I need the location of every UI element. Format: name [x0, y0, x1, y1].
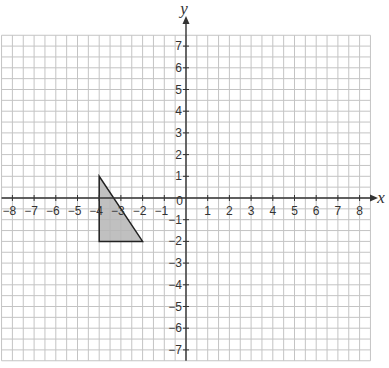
y-tick-label: 6	[175, 61, 182, 75]
x-tick-label: −4	[89, 204, 103, 218]
y-tick-label: −4	[168, 278, 182, 292]
x-tick-label: 4	[269, 204, 276, 218]
x-tick-label: −6	[46, 204, 60, 218]
tick-labels: −8−7−6−5−4−3−2−1123456787654321−1−2−3−4−…	[3, 0, 386, 357]
x-tick-label: 8	[356, 204, 363, 218]
y-tick-label: 1	[175, 169, 182, 183]
x-tick-label: 2	[226, 204, 233, 218]
coordinate-grid: −8−7−6−5−4−3−2−1123456787654321−1−2−3−4−…	[0, 0, 389, 368]
y-tick-label: −7	[168, 343, 182, 357]
y-tick-label: −5	[168, 300, 182, 314]
origin-label: 0	[176, 194, 183, 208]
x-axis-label: x	[376, 188, 385, 207]
x-tick-label: −3	[111, 204, 125, 218]
x-tick-label: 1	[204, 204, 211, 218]
x-tick-label: −7	[24, 204, 38, 218]
y-tick-label: −1	[168, 213, 182, 227]
x-tick-label: 3	[248, 204, 255, 218]
x-tick-label: −8	[3, 204, 17, 218]
x-tick-label: −1	[154, 204, 168, 218]
y-tick-label: −6	[168, 321, 182, 335]
x-tick-label: 7	[335, 204, 342, 218]
y-tick-label: 7	[175, 39, 182, 53]
y-tick-label: −2	[168, 234, 182, 248]
x-tick-label: 5	[291, 204, 298, 218]
x-tick-label: 6	[313, 204, 320, 218]
y-tick-label: 4	[175, 104, 182, 118]
y-tick-label: 2	[175, 148, 182, 162]
x-tick-label: −2	[133, 204, 147, 218]
y-tick-label: −3	[168, 256, 182, 270]
x-tick-label: −5	[68, 204, 82, 218]
y-tick-label: 3	[175, 126, 182, 140]
y-axis-label: y	[178, 0, 188, 18]
y-tick-label: 5	[175, 83, 182, 97]
